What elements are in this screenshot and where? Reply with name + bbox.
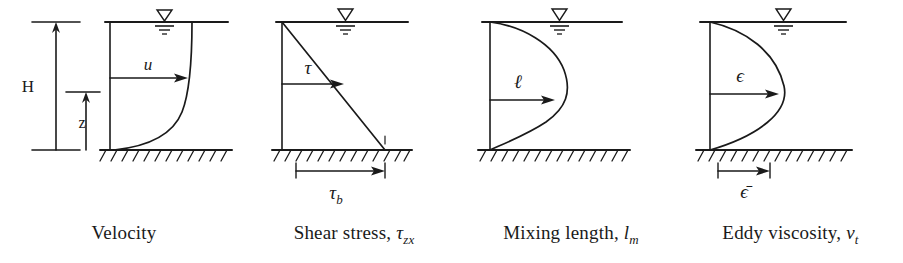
caption-shear-stress-subscript: zx [403,232,414,247]
mean-eddy-viscosity-label: ϵ̄ [740,181,753,202]
caption-eddy-viscosity: Eddy viscosity, vt [678,222,903,248]
caption-mixing-length: Mixing length, lm [460,222,682,248]
panel-mixing-length: ℓ Mixing length, lm [460,0,682,263]
velocity-profile-drawing: H z u [0,0,248,218]
panel-eddy-viscosity: ϵ ϵ̄ Eddy viscosity, vt [678,0,903,263]
caption-mixing-length-subscript: m [629,232,639,247]
mixing-length-profile-drawing: ℓ [460,0,682,218]
elevation-label-z: z [78,114,85,131]
depth-label-H: H [22,77,34,96]
figure-container: H z u Velocity [0,0,903,263]
bed-hatching [100,150,227,161]
caption-shear-stress: Shear stress, τzx [244,222,464,248]
velocity-symbol-label: u [144,55,153,74]
bed-shear-label: τb [329,182,343,207]
caption-shear-stress-text: Shear stress, [294,222,392,243]
bed-hatching [274,150,410,161]
shear-stress-profile-drawing: τ τb [244,0,464,218]
eddy-viscosity-profile-drawing: ϵ ϵ̄ [678,0,903,218]
eddy-viscosity-profile-curve [710,22,785,150]
bed-hatching [698,150,847,161]
caption-mixing-length-text: Mixing length, [503,222,619,243]
bed-hatching [480,150,628,161]
bed-shear-label-subscript: b [336,192,343,207]
caption-eddy-viscosity-subscript: t [855,232,859,247]
panel-velocity: H z u Velocity [0,0,248,263]
shear-symbol-label: τ [305,57,313,78]
panel-shear-stress: τ τb Shear stress, τzx [244,0,464,263]
mixing-length-symbol-label: ℓ [514,71,522,92]
caption-eddy-viscosity-symbol: v [846,222,855,243]
mixing-length-profile-curve [490,22,567,150]
eddy-viscosity-symbol-label: ϵ [736,65,745,86]
caption-velocity-text: Velocity [92,222,157,243]
caption-velocity: Velocity [0,222,248,244]
velocity-profile-curve [114,22,192,150]
caption-eddy-viscosity-text: Eddy viscosity, [722,222,841,243]
